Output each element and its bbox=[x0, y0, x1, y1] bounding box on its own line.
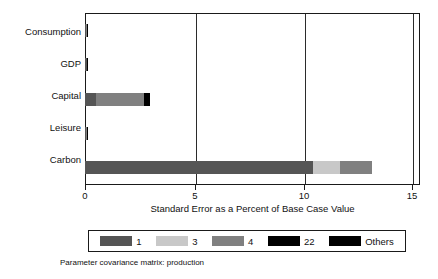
bar-stack bbox=[85, 161, 372, 174]
bar-gdp bbox=[85, 58, 420, 71]
legend-item-3[interactable]: 3 bbox=[156, 236, 197, 247]
bar-segment-series-1 bbox=[85, 161, 313, 174]
bar-segment-series-3 bbox=[313, 161, 340, 174]
legend-label: 1 bbox=[136, 236, 141, 247]
x-tick-label-5: 5 bbox=[192, 191, 197, 201]
bar-stack bbox=[85, 24, 88, 37]
bar-segment-series-4 bbox=[96, 93, 144, 106]
legend-item-others[interactable]: Others bbox=[329, 236, 394, 247]
y-axis-label-capital: Capital bbox=[3, 91, 81, 101]
bar-stack bbox=[85, 58, 88, 71]
bar-series-group bbox=[85, 13, 420, 185]
chart-legend: 13422Others bbox=[88, 230, 406, 252]
bar-carbon bbox=[85, 161, 420, 174]
legend-swatch-icon bbox=[329, 236, 361, 246]
bar-segment-series-others bbox=[144, 93, 150, 106]
chart-container: Consumption GDP Capital Leisure Carbon 0… bbox=[0, 0, 438, 279]
y-axis-label-carbon: Carbon bbox=[3, 155, 81, 165]
bar-segment-series-others bbox=[87, 127, 88, 140]
legend-label: Others bbox=[365, 236, 394, 247]
legend-label: 4 bbox=[248, 236, 253, 247]
y-axis-label-gdp: GDP bbox=[3, 59, 81, 69]
bar-stack bbox=[85, 127, 88, 140]
legend-label: 22 bbox=[304, 236, 315, 247]
bar-stack bbox=[85, 93, 150, 106]
legend-item-1[interactable]: 1 bbox=[100, 236, 141, 247]
x-tick-label-0: 0 bbox=[82, 191, 87, 201]
y-axis-label-consumption: Consumption bbox=[3, 27, 81, 37]
legend-swatch-icon bbox=[212, 236, 244, 246]
legend-swatch-icon bbox=[156, 236, 188, 246]
y-axis-label-leisure: Leisure bbox=[3, 123, 81, 133]
legend-item-4[interactable]: 4 bbox=[212, 236, 253, 247]
x-tick-label-10: 10 bbox=[299, 191, 310, 201]
chart-caption: Parameter covariance matrix: production bbox=[60, 258, 204, 267]
bar-leisure bbox=[85, 127, 420, 140]
bar-capital bbox=[85, 93, 420, 106]
x-tick-label-15: 15 bbox=[407, 191, 418, 201]
bar-segment-series-1 bbox=[85, 93, 96, 106]
bar-segment-series-22 bbox=[87, 58, 88, 71]
y-axis-labels: Consumption GDP Capital Leisure Carbon bbox=[0, 13, 81, 185]
legend-item-22[interactable]: 22 bbox=[268, 236, 315, 247]
x-axis-ticks: 0 5 10 15 bbox=[85, 185, 420, 191]
bar-segment-series-others bbox=[87, 24, 88, 37]
legend-label: 3 bbox=[192, 236, 197, 247]
bar-consumption bbox=[85, 24, 420, 37]
legend-swatch-icon bbox=[268, 236, 300, 246]
bar-segment-series-4 bbox=[340, 161, 372, 174]
x-axis-title: Standard Error as a Percent of Base Case… bbox=[85, 203, 420, 214]
legend-swatch-icon bbox=[100, 236, 132, 246]
